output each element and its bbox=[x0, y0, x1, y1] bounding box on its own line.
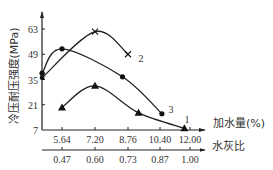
dot-marker bbox=[59, 46, 64, 51]
x2-tick-label: 1.00 bbox=[181, 154, 199, 165]
y-tick-label: 49 bbox=[28, 49, 38, 60]
chart: 721354963 5.647.208.7610.4012.00 0.470.6… bbox=[0, 0, 273, 170]
x2-axis-title: 水灰比 bbox=[212, 139, 245, 153]
x-tick-label: 5.64 bbox=[53, 134, 71, 145]
x-tick-label: 12.00 bbox=[179, 134, 202, 145]
x2-tick-label: 0.87 bbox=[151, 154, 169, 165]
y-tick-label: 21 bbox=[28, 100, 38, 111]
series-label: 1 bbox=[184, 114, 189, 125]
x2-tick-label: 0.60 bbox=[86, 154, 104, 165]
x2-tick-label: 0.73 bbox=[119, 154, 137, 165]
y-axis-title: 冷压耐压强度(MPa) bbox=[7, 28, 21, 125]
triangle-marker bbox=[135, 109, 143, 116]
series-2: 2 bbox=[40, 29, 144, 80]
series-3: 3 bbox=[40, 46, 174, 116]
series-group: 123 bbox=[40, 29, 190, 131]
y-tick-label: 7 bbox=[33, 125, 38, 136]
dot-marker bbox=[120, 74, 125, 79]
x-tick-label: 7.20 bbox=[86, 134, 104, 145]
series-label: 3 bbox=[168, 104, 173, 115]
x-tick-label: 10.40 bbox=[149, 134, 172, 145]
x2-tick-label: 0.47 bbox=[53, 154, 71, 165]
x-tick-label: 8.76 bbox=[119, 134, 137, 145]
series-label: 2 bbox=[139, 53, 144, 64]
x-axis-title: 加水量(%) bbox=[213, 117, 265, 130]
dot-marker bbox=[159, 111, 164, 116]
y-tick-label: 35 bbox=[28, 75, 38, 86]
y-tick-label: 63 bbox=[28, 24, 38, 35]
x-marker bbox=[125, 51, 131, 57]
